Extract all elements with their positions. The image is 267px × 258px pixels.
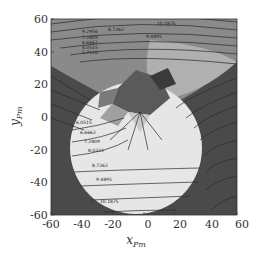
x-axis-label-sub: Pm <box>133 240 146 249</box>
y-axis-label-sub: Pm <box>15 106 24 119</box>
svg-text:10.1875: 10.1875 <box>157 21 176 26</box>
x-tick-label: 0 <box>145 219 152 230</box>
x-tick-label: 60 <box>235 219 249 230</box>
y-axis-label: yPm <box>8 106 24 126</box>
svg-text:9.2956: 9.2956 <box>82 29 98 34</box>
x-tick-label: -40 <box>73 219 91 230</box>
svg-text:9.4895: 9.4895 <box>146 34 162 39</box>
y-tick-label: -20 <box>30 145 48 156</box>
svg-text:7.2809: 7.2809 <box>84 139 100 144</box>
svg-text:9.4895: 9.4895 <box>96 177 112 182</box>
svg-text:10.1875: 10.1875 <box>100 199 119 204</box>
y-tick-label: 40 <box>34 47 48 58</box>
y-tick-label: -40 <box>30 177 48 188</box>
y-axis-label-main: y <box>8 119 22 126</box>
y-tick-label: 60 <box>34 14 48 25</box>
x-axis-label-main: x <box>126 233 133 247</box>
svg-text:6.0515: 6.0515 <box>76 120 92 125</box>
svg-text:8.7262: 8.7262 <box>92 163 108 168</box>
y-tick-label: 20 <box>34 79 48 90</box>
svg-text:5.7110: 5.7110 <box>82 50 98 55</box>
x-tick-label: 40 <box>205 219 219 230</box>
y-tick-label: 0 <box>41 112 48 123</box>
svg-text:8.7262: 8.7262 <box>108 27 124 32</box>
x-tick-label: -20 <box>104 219 122 230</box>
x-tick-label: 20 <box>173 219 187 230</box>
svg-text:6.6662: 6.6662 <box>80 130 96 135</box>
x-axis-label: xPm <box>126 233 146 249</box>
contour-figure: 9.2956 7.2809 6.6662 6.0515 5.7110 8.726… <box>0 0 267 258</box>
x-tick-label: -60 <box>42 219 60 230</box>
svg-text:8.0222: 8.0222 <box>88 148 104 153</box>
